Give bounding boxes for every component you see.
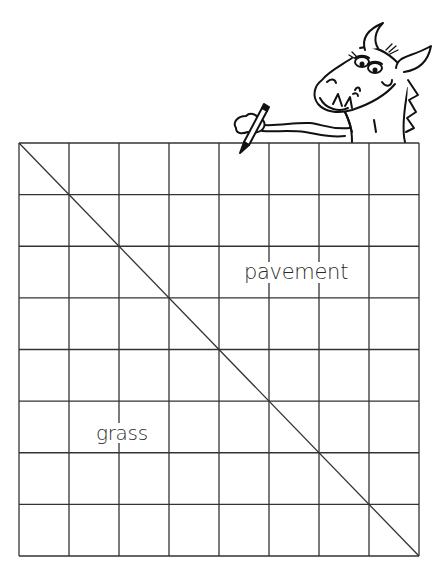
pavement-label: pavement	[242, 262, 350, 283]
dragon-icon	[235, 23, 431, 153]
grass-label: grass	[94, 423, 150, 443]
grid-diagram	[0, 0, 441, 579]
